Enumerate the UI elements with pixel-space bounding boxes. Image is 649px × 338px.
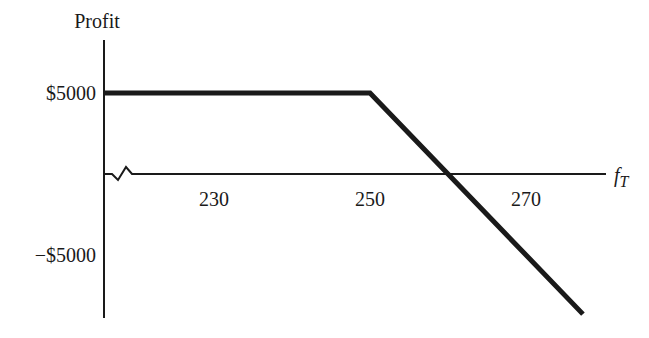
y-tick-labels: $5000−$5000 xyxy=(35,82,96,266)
axes xyxy=(104,40,606,318)
profit-chart: Profit fT 230250270 $5000−$5000 xyxy=(0,0,649,338)
x-tick-label-270: 270 xyxy=(511,188,541,210)
x-tick-label-230: 230 xyxy=(199,188,229,210)
x-axis-label: fT xyxy=(614,164,630,190)
x-tick-labels: 230250270 xyxy=(199,188,541,210)
x-axis xyxy=(104,167,606,180)
x-axis-label-subscript: T xyxy=(620,173,630,190)
y-tick-label-positive: $5000 xyxy=(46,82,96,104)
x-tick-label-250: 250 xyxy=(355,188,385,210)
y-tick-label-negative: −$5000 xyxy=(35,244,96,266)
y-axis-label: Profit xyxy=(74,10,120,32)
